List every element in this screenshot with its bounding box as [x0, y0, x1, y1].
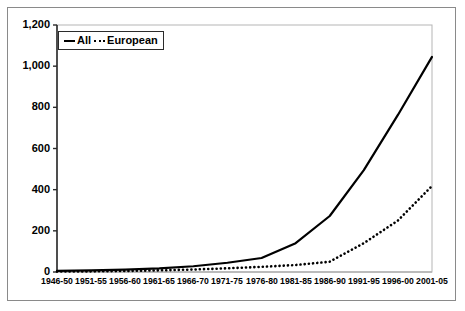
x-tick-label: 1956-60 [107, 276, 144, 286]
y-tick-label: 400 [2, 183, 50, 195]
x-tick-label: 1951-55 [73, 276, 110, 286]
figure-canvas: 02004006008001,0001,200 1946-501951-5519… [0, 0, 465, 311]
x-tick-label: 1961-65 [141, 276, 178, 286]
solid-line-icon [64, 40, 75, 42]
x-tick-label: 1991-95 [345, 276, 382, 286]
y-tick-label: 200 [2, 224, 50, 236]
y-tick-label: 800 [2, 100, 50, 112]
x-tick-label: 1971-75 [209, 276, 246, 286]
x-tick-label: 1966-70 [175, 276, 212, 286]
dotted-line-icon [94, 40, 105, 42]
legend-label-all: All [77, 35, 91, 46]
chart-plot-region: 02004006008001,0001,200 1946-501951-5519… [0, 0, 465, 311]
plot-frame [57, 25, 432, 272]
x-tick-label: 1981-85 [277, 276, 314, 286]
chart-legend[interactable]: All European [58, 31, 164, 50]
y-tick-label: 1,200 [2, 18, 50, 30]
legend-item-all[interactable]: All [64, 35, 91, 46]
y-tick-label: 1,000 [2, 59, 50, 71]
x-tick-label: 1986-90 [311, 276, 348, 286]
x-tick-label: 1996-00 [380, 276, 417, 286]
legend-label-european: European [107, 35, 158, 46]
x-tick-label: 1946-50 [39, 276, 76, 286]
x-tick-label: 1976-80 [243, 276, 280, 286]
x-tick-label: 2001-05 [414, 276, 451, 286]
y-tick-label: 600 [2, 142, 50, 154]
legend-item-european[interactable]: European [94, 35, 158, 46]
